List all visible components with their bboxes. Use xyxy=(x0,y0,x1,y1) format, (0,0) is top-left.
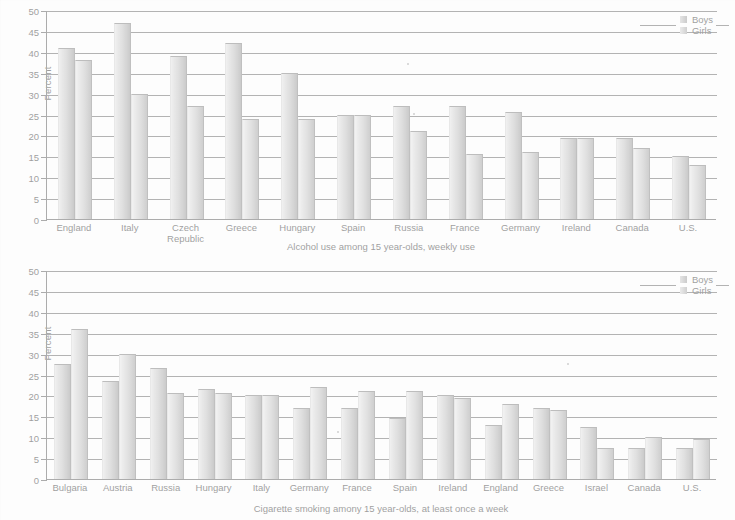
scan-speck xyxy=(407,63,409,65)
bar-group xyxy=(669,270,717,479)
bar-boys xyxy=(560,138,577,220)
bar-groups-top xyxy=(47,10,717,219)
x-axis-label: Spain xyxy=(381,482,429,493)
bar-group xyxy=(326,10,382,219)
bar-boys xyxy=(58,48,75,219)
y-tick-label: 30 xyxy=(28,349,39,360)
y-tick-label: 35 xyxy=(28,68,39,79)
bar-boys xyxy=(616,138,633,220)
bar-group xyxy=(382,270,430,479)
bar-boys xyxy=(225,43,242,219)
bar-girls xyxy=(502,404,519,479)
bar-boys xyxy=(676,448,693,479)
y-tick-label: 30 xyxy=(28,89,39,100)
y-tick-label: 5 xyxy=(34,454,39,465)
bar-girls xyxy=(187,106,204,219)
bar-group xyxy=(605,10,661,219)
x-axis-labels-bottom: BulgariaAustriaRussiaHungaryItalyGermany… xyxy=(46,482,716,493)
y-tick-label: 45 xyxy=(28,286,39,297)
bar-boys xyxy=(437,395,454,479)
y-tick-label: 25 xyxy=(28,370,39,381)
bar-girls xyxy=(119,354,136,479)
y-tick-label: 5 xyxy=(34,194,39,205)
x-axis-label: France xyxy=(333,482,381,493)
bar-group xyxy=(103,10,159,219)
legend-item-girls: Girls xyxy=(680,25,713,36)
legend-swatch-boys-icon xyxy=(680,276,687,283)
bar-group xyxy=(270,10,326,219)
bar-boys xyxy=(198,389,215,479)
y-tick-label: 15 xyxy=(28,152,39,163)
bar-group xyxy=(573,270,621,479)
bar-girls xyxy=(550,410,567,479)
bar-boys xyxy=(505,112,522,219)
bar-girls xyxy=(215,393,232,479)
bar-boys xyxy=(54,364,71,479)
bar-girls xyxy=(354,115,371,220)
y-tick-label: 50 xyxy=(28,6,39,17)
bar-group xyxy=(430,270,478,479)
x-axis-label: Hungary xyxy=(190,482,238,493)
bar-boys xyxy=(389,418,406,479)
y-tick-label: 35 xyxy=(28,328,39,339)
y-tick-label: 40 xyxy=(28,307,39,318)
bar-boys xyxy=(393,106,410,219)
bar-girls xyxy=(131,94,148,219)
x-axis-label: Bulgaria xyxy=(46,482,94,493)
y-tick-label: 15 xyxy=(28,412,39,423)
bar-groups-bottom xyxy=(47,270,717,479)
bar-girls xyxy=(597,448,614,479)
legend-rule-left xyxy=(640,25,676,26)
scan-speck xyxy=(337,431,339,433)
plot-area-top: 05101520253035404550 xyxy=(46,11,716,220)
legend-item-girls: Girls xyxy=(680,285,713,296)
x-axis-label: Ireland xyxy=(429,482,477,493)
bar-boys xyxy=(580,427,597,479)
y-tick-label: 10 xyxy=(28,173,39,184)
bar-group xyxy=(382,10,438,219)
bar-girls xyxy=(310,387,327,479)
chart-panel-cigarette: Percent 05101520253035404550 BulgariaAus… xyxy=(0,260,735,520)
plot-area-bottom: 05101520253035404550 xyxy=(46,271,716,480)
bar-girls xyxy=(167,393,184,479)
bar-boys xyxy=(150,368,167,479)
bar-group xyxy=(621,270,669,479)
bar-girls xyxy=(242,119,259,219)
bar-group xyxy=(478,270,526,479)
x-axis-label: U.S. xyxy=(668,482,716,493)
y-tick-label: 20 xyxy=(28,391,39,402)
legend-bottom: Boys Girls xyxy=(680,274,713,296)
legend-swatch-girls-icon xyxy=(680,287,687,294)
bar-girls xyxy=(522,152,539,219)
y-tick-label: 45 xyxy=(28,26,39,37)
bar-girls xyxy=(406,391,423,479)
legend-label-boys: Boys xyxy=(692,14,713,25)
bar-group xyxy=(214,10,270,219)
bar-group xyxy=(661,10,717,219)
scan-speck xyxy=(567,363,569,365)
legend-item-boys: Boys xyxy=(680,274,713,285)
axis-tick-mark xyxy=(41,480,47,481)
bar-group xyxy=(438,10,494,219)
bar-girls xyxy=(262,395,279,479)
y-tick-label: 20 xyxy=(28,131,39,142)
bar-boys xyxy=(533,408,550,479)
bar-girls xyxy=(71,329,88,479)
bar-girls xyxy=(645,437,662,479)
bar-girls xyxy=(298,119,315,219)
bar-boys xyxy=(628,448,645,479)
bar-boys xyxy=(672,156,689,219)
bar-girls xyxy=(358,391,375,479)
bar-group xyxy=(191,270,239,479)
y-tick-label: 40 xyxy=(28,47,39,58)
bar-group xyxy=(47,10,103,219)
x-axis-label: Israel xyxy=(572,482,620,493)
chart-caption-bottom: Cigarette smoking amony 15 year-olds, at… xyxy=(46,503,716,514)
bar-group xyxy=(334,270,382,479)
axis-tick-mark xyxy=(41,220,47,221)
bar-boys xyxy=(341,408,358,479)
bar-boys xyxy=(170,56,187,219)
y-tick-label: 0 xyxy=(34,475,39,486)
legend-label-girls: Girls xyxy=(692,285,712,296)
bar-group xyxy=(143,270,191,479)
